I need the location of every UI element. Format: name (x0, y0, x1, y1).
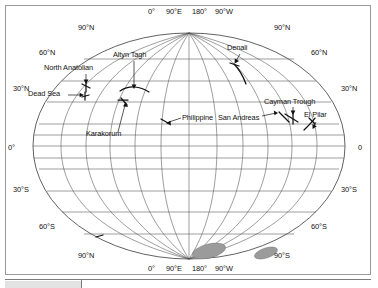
axis-label-lon-bottom-0: 0° (148, 265, 155, 272)
map-graticule-svg (6, 6, 372, 276)
fault-southern-mark (96, 235, 103, 237)
axis-label-lat-left-60S: 60°S (39, 223, 55, 230)
figure-page: 0° 90°E 180° 90°W 0° 90°E 180° 90°W 90°N… (0, 0, 378, 288)
table-header-cell-right (85, 280, 365, 288)
axis-label-lon-top-90W: 90°W (215, 8, 233, 15)
map-label-denali: Denali (227, 44, 247, 51)
map-label-altyn-tagh: Altyn Tagh (113, 51, 146, 58)
axis-label-lon-bottom-180: 180° (192, 265, 207, 272)
axis-label-lon-top-0: 0° (148, 8, 155, 15)
map-label-dead-sea: Dead Sea (28, 90, 60, 97)
map-label-north-anatolian: North Anatolian (44, 64, 93, 71)
map-label-el-pilar: El Pilar (304, 111, 327, 118)
table-column-divider (81, 280, 82, 288)
fault-traces (82, 63, 315, 237)
map-label-san-andreas: San Andreas (218, 114, 259, 121)
axis-label-lat-left-90N-top: 90°N (78, 24, 94, 31)
axis-label-lat-left-60N: 60°N (39, 49, 55, 56)
table-header-cell-left (5, 281, 81, 288)
map-label-karakorum: Karakorum (86, 130, 121, 137)
fault-denali-tick (230, 63, 239, 66)
world-map: 0° 90°E 180° 90°W 0° 90°E 180° 90°W 90°N… (6, 6, 372, 276)
axis-label-lat-left-0: 0° (8, 144, 15, 151)
axis-label-lat-right-30S: 30°S (341, 186, 357, 193)
fault-san-andreas (279, 112, 289, 122)
map-label-cayman-trough: Cayman Trough (264, 98, 315, 105)
figure-frame: 0° 90°E 180° 90°W 0° 90°E 180° 90°W 90°N… (5, 5, 371, 275)
bottom-table-fragment (5, 279, 371, 288)
axis-label-lat-right-60N: 60°N (311, 49, 327, 56)
map-label-philippine: Philippine (182, 114, 213, 121)
axis-label-lat-left-30N: 30°N (13, 85, 29, 92)
axis-label-lat-right-60S: 60°S (311, 223, 327, 230)
axis-label-lat-right-90N-top: 90°N (274, 24, 290, 31)
axis-label-lat-right-90S-bottom: 90°S (274, 252, 290, 259)
axis-label-lat-right-30N: 30°N (341, 85, 357, 92)
shaded-regions (191, 240, 279, 262)
axis-label-lat-right-0: 0 (358, 144, 362, 151)
axis-label-lon-bottom-90E: 90°E (166, 265, 182, 272)
axis-label-lon-top-180: 180° (192, 8, 207, 15)
axis-label-lat-left-90N-bottom: 90°N (78, 252, 94, 259)
axis-label-lon-bottom-90W: 90°W (215, 265, 233, 272)
axis-label-lat-left-30S: 30°S (13, 186, 29, 193)
axis-label-lon-top-90E: 90°E (166, 8, 182, 15)
